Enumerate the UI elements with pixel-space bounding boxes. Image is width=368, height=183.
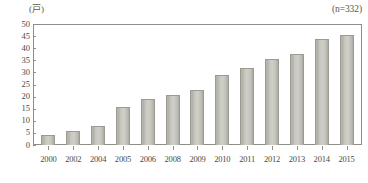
bar bbox=[41, 135, 55, 145]
bar bbox=[340, 35, 354, 145]
x-axis-tick-label: 2014 bbox=[314, 154, 330, 164]
x-axis-tick-label: 2013 bbox=[289, 154, 305, 164]
x-axis-tick-label: 2004 bbox=[90, 154, 106, 164]
bar bbox=[116, 107, 130, 145]
x-axis-slot: 2004 bbox=[86, 146, 111, 176]
bar-slot bbox=[185, 25, 210, 145]
y-axis-tick-label: 40 bbox=[22, 44, 31, 53]
x-axis-tick-mark bbox=[123, 146, 124, 150]
x-axis-slot: 2000 bbox=[36, 146, 61, 176]
x-axis-tick-label: 2008 bbox=[165, 154, 181, 164]
y-axis: 50454035302520151050 bbox=[14, 18, 34, 151]
bar bbox=[166, 95, 180, 145]
y-axis-unit-label: (戸) bbox=[29, 4, 44, 15]
bar bbox=[190, 90, 204, 145]
bar bbox=[240, 68, 254, 145]
bar-slot bbox=[284, 25, 309, 145]
bar-slot bbox=[235, 25, 260, 145]
bar-slot bbox=[86, 25, 111, 145]
x-axis-tick-label: 2010 bbox=[214, 154, 230, 164]
x-axis-tick-label: 2002 bbox=[65, 154, 81, 164]
y-axis-tick-label: 0 bbox=[26, 141, 30, 150]
x-axis-tick-label: 2011 bbox=[239, 154, 255, 164]
y-axis-tick-label: 35 bbox=[22, 56, 31, 65]
x-axis-tick-label: 2009 bbox=[189, 154, 205, 164]
x-axis-tick-label: 2012 bbox=[264, 154, 280, 164]
plot-area bbox=[34, 25, 361, 145]
x-axis-slot: 2010 bbox=[210, 146, 235, 176]
bar-slot bbox=[160, 25, 185, 145]
x-axis-tick-mark bbox=[148, 146, 149, 150]
bar-slot bbox=[210, 25, 235, 145]
x-axis-tick-label: 2006 bbox=[140, 154, 156, 164]
x-axis-tick-mark bbox=[98, 146, 99, 150]
bar-slot bbox=[36, 25, 61, 145]
x-axis-slot: 2008 bbox=[160, 146, 185, 176]
x-axis-tick-mark bbox=[197, 146, 198, 150]
x-axis-slot: 2015 bbox=[334, 146, 359, 176]
y-axis-tick-label: 25 bbox=[22, 80, 31, 89]
x-axis-tick-mark bbox=[222, 146, 223, 150]
x-axis-slot: 2009 bbox=[185, 146, 210, 176]
bar-slot bbox=[260, 25, 285, 145]
x-axis-tick-mark bbox=[173, 146, 174, 150]
y-axis-tick-label: 50 bbox=[22, 20, 31, 29]
bar-slot bbox=[111, 25, 136, 145]
bar bbox=[66, 131, 80, 145]
bar-slot bbox=[61, 25, 86, 145]
y-axis-tick-label: 20 bbox=[22, 92, 31, 101]
y-axis-tick-label: 10 bbox=[22, 116, 31, 125]
bar bbox=[91, 126, 105, 145]
x-axis-tick-mark bbox=[297, 146, 298, 150]
x-axis-tick-mark bbox=[322, 146, 323, 150]
bar-slot bbox=[135, 25, 160, 145]
x-axis-slot: 2006 bbox=[135, 146, 160, 176]
x-axis-tick-mark bbox=[73, 146, 74, 150]
x-axis-tick-label: 2005 bbox=[115, 154, 131, 164]
x-axis-tick-label: 2015 bbox=[338, 154, 354, 164]
bar bbox=[265, 59, 279, 145]
sample-size-annotation: (n=332) bbox=[332, 4, 362, 15]
x-axis-slot: 2012 bbox=[260, 146, 285, 176]
y-axis-tick-label: 15 bbox=[22, 104, 31, 113]
x-axis-tick-mark bbox=[272, 146, 273, 150]
bar bbox=[290, 54, 304, 145]
x-axis-slot: 2014 bbox=[309, 146, 334, 176]
x-axis-tick-mark bbox=[48, 146, 49, 150]
x-axis-tick-label: 2000 bbox=[40, 154, 56, 164]
x-axis-slot: 2011 bbox=[235, 146, 260, 176]
x-axis-tick-mark bbox=[347, 146, 348, 150]
x-axis-slot: 2013 bbox=[284, 146, 309, 176]
bar-chart-figure: (戸) (n=332) 50454035302520151050 2000200… bbox=[0, 0, 368, 183]
x-axis-slot: 2002 bbox=[61, 146, 86, 176]
x-axis-slot: 2005 bbox=[111, 146, 136, 176]
bar bbox=[141, 99, 155, 145]
x-axis-tick-mark bbox=[247, 146, 248, 150]
x-axis: 2000200220042005200620082009201020112012… bbox=[34, 146, 361, 176]
bar bbox=[215, 75, 229, 145]
bar bbox=[315, 39, 329, 145]
y-axis-tick-label: 45 bbox=[22, 32, 31, 41]
y-axis-tick-label: 30 bbox=[22, 68, 31, 77]
y-axis-tick-label: 5 bbox=[26, 128, 30, 137]
bar-slot bbox=[334, 25, 359, 145]
bar-slot bbox=[309, 25, 334, 145]
